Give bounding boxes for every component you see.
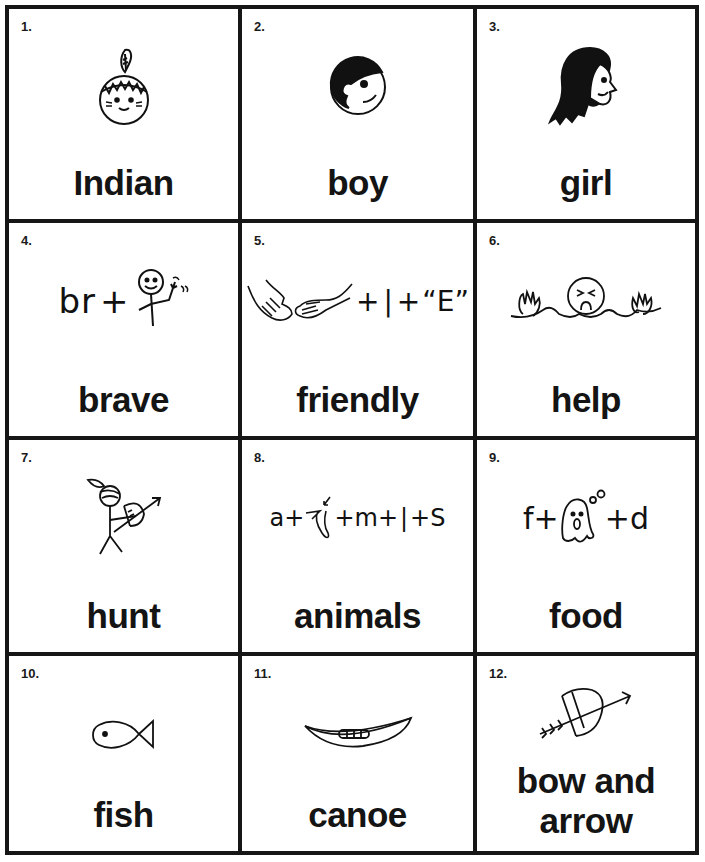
- card-number: 10.: [21, 666, 39, 681]
- card-number: 2.: [254, 19, 265, 34]
- card-girl: 3. girl: [477, 9, 695, 219]
- card-fish: 10. fish: [9, 656, 238, 851]
- handshake-icon: [246, 276, 354, 326]
- knee-leg-icon: [304, 493, 334, 543]
- fish-icon: [9, 684, 238, 784]
- card-word: food: [477, 596, 695, 636]
- indian-face-icon: [9, 37, 238, 137]
- flashcard-grid: 1. Indian 2.: [5, 5, 699, 855]
- card-word: help: [477, 380, 695, 420]
- card-canoe: 11. canoe: [242, 656, 473, 851]
- card-number: 6.: [489, 233, 500, 248]
- card-boy: 2. boy: [242, 9, 473, 219]
- ghost-icon: [559, 488, 605, 548]
- card-word: friendly: [242, 380, 473, 420]
- card-help: 6. help: [477, 223, 695, 436]
- card-number: 8.: [254, 450, 265, 465]
- card-hunt: 7. hunt: [9, 440, 238, 652]
- card-word: animals: [242, 596, 473, 636]
- card-number: 4.: [21, 233, 32, 248]
- card-word: fish: [9, 795, 238, 835]
- card-word: canoe: [242, 795, 473, 835]
- card-number: 5.: [254, 233, 265, 248]
- card-word: girl: [477, 163, 695, 203]
- card-number: 11.: [254, 666, 271, 681]
- bow-and-arrow-icon: [477, 674, 695, 754]
- card-word: Indian: [9, 163, 238, 203]
- card-animals: 8. a+ +m+ | +S animals: [242, 440, 473, 652]
- card-word: bow and arrow: [477, 761, 695, 841]
- rebus-friendly: + | + “E”: [242, 251, 473, 351]
- rebus-food: f+ +d: [477, 468, 695, 568]
- card-bow-and-arrow: 12. bow and arrow: [477, 656, 695, 851]
- card-number: 7.: [21, 450, 32, 465]
- card-friendly: 5. + | + “E” friendly: [242, 223, 473, 436]
- rebus-brave: br +: [9, 251, 238, 351]
- card-number: 9.: [489, 450, 500, 465]
- boy-face-icon: [242, 37, 473, 137]
- card-brave: 4. br + brave: [9, 223, 238, 436]
- card-number: 1.: [21, 19, 32, 34]
- drowning-person-icon: [477, 251, 695, 351]
- card-number: 3.: [489, 19, 500, 34]
- hunter-stickman-icon: [9, 468, 238, 568]
- card-word: boy: [242, 163, 473, 203]
- rebus-animals: a+ +m+ | +S: [242, 468, 473, 568]
- card-word: hunt: [9, 596, 238, 636]
- card-indian: 1. Indian: [9, 9, 238, 219]
- card-food: 9. f+ +d food: [477, 440, 695, 652]
- waving-stickman-icon: [133, 266, 189, 336]
- girl-face-icon: [477, 37, 695, 137]
- canoe-icon: [242, 684, 473, 784]
- card-word: brave: [9, 380, 238, 420]
